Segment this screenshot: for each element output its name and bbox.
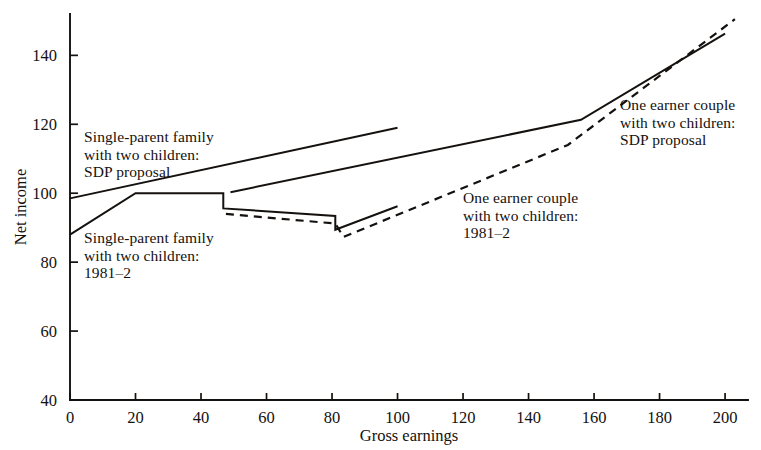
y-axis-ticks [70, 55, 78, 400]
x-tick-label: 200 [713, 408, 738, 427]
annotation-single-parent-sdp: Single-parent family with two children: … [84, 128, 214, 181]
y-tick-label: 100 [32, 184, 57, 203]
x-axis-ticks [70, 393, 725, 400]
y-axis-title: Net income [11, 169, 30, 246]
annotation-one-earner-sdp: One earner couple with two children: SDP… [620, 96, 735, 149]
line-chart-canvas: 020406080100120140160180200 406080100120… [0, 0, 761, 450]
x-tick-label: 0 [66, 408, 74, 427]
x-tick-label: 60 [258, 408, 275, 427]
annotation-single-parent-1981: Single-parent family with two children: … [84, 229, 214, 282]
x-tick-label: 20 [127, 408, 144, 427]
chart-figure: 020406080100120140160180200 406080100120… [0, 0, 761, 450]
x-tick-label: 120 [451, 408, 476, 427]
axes-group [70, 14, 748, 400]
y-tick-label: 120 [32, 115, 57, 134]
y-axis-tick-labels: 406080100120140 [32, 46, 57, 410]
x-tick-label: 140 [516, 408, 541, 427]
x-tick-label: 160 [582, 408, 607, 427]
x-tick-label: 80 [324, 408, 341, 427]
y-tick-label: 80 [41, 253, 58, 272]
x-axis-title: Gross earnings [360, 426, 459, 445]
x-tick-label: 40 [193, 408, 210, 427]
x-tick-label: 180 [647, 408, 672, 427]
y-tick-label: 60 [41, 322, 58, 341]
x-axis-tick-labels: 020406080100120140160180200 [66, 408, 738, 427]
y-tick-label: 40 [41, 391, 58, 410]
y-tick-label: 140 [32, 46, 57, 65]
x-tick-label: 100 [385, 408, 410, 427]
annotation-one-earner-1981: One earner couple with two children: 198… [463, 189, 578, 242]
